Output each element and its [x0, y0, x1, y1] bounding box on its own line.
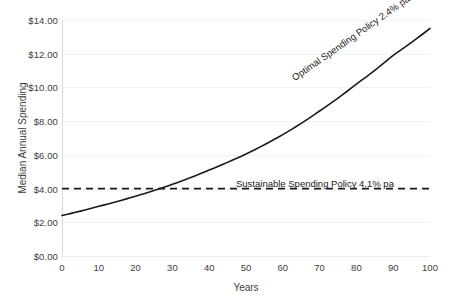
chart-container: $14.00 $12.00 $10.00 $8.00 $6.00 $4.00 $…: [0, 0, 454, 302]
sustainable-line-label: Sustainable Spending Policy 4.1% pa: [236, 178, 394, 189]
series-layer: [0, 0, 454, 302]
